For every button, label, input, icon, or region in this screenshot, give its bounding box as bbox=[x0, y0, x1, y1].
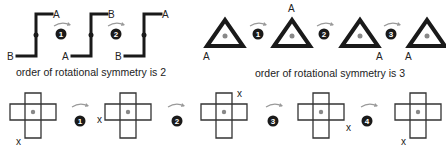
arrowhead-icon bbox=[397, 22, 401, 26]
z1-bottom-label: B bbox=[7, 51, 14, 62]
center-dot-icon bbox=[126, 110, 130, 114]
cross-frame-5: x bbox=[395, 93, 441, 147]
center-dot-icon bbox=[89, 33, 94, 38]
tri4-marker: A bbox=[405, 51, 412, 62]
z1-top-label: A bbox=[53, 9, 60, 20]
step-number: 1 bbox=[59, 30, 64, 39]
step-number: 2 bbox=[175, 117, 180, 126]
step-number: 2 bbox=[114, 30, 119, 39]
center-dot-icon bbox=[425, 34, 430, 39]
cross2-marker: x bbox=[97, 114, 102, 125]
arrowhead-icon bbox=[330, 22, 334, 26]
center-dot-icon bbox=[31, 110, 35, 114]
center-dot-icon bbox=[290, 34, 295, 39]
triangle-frame-3: A bbox=[342, 20, 383, 62]
tri2-marker: A bbox=[288, 3, 295, 14]
step-number: 4 bbox=[365, 117, 370, 126]
cross3-marker: x bbox=[237, 88, 242, 99]
center-dot-icon bbox=[223, 34, 228, 39]
center-dot-icon bbox=[142, 33, 147, 38]
arrowhead-icon bbox=[85, 103, 89, 107]
tri1-marker: A bbox=[203, 51, 210, 62]
arrowhead-icon bbox=[121, 22, 125, 26]
triangle-step-3: 3 bbox=[384, 22, 401, 40]
z2-bottom-label: A bbox=[62, 51, 69, 62]
arrowhead-icon bbox=[181, 103, 185, 107]
tri3-marker: A bbox=[376, 51, 383, 62]
cross-frame-3: x bbox=[201, 88, 247, 138]
z-caption: order of rotational symmetry is 2 bbox=[16, 66, 166, 78]
arrowhead-icon bbox=[263, 22, 267, 26]
triangle-step-1: 1 bbox=[250, 22, 267, 40]
z-step-2: 2 bbox=[108, 22, 125, 40]
z3-bottom-label: B bbox=[115, 51, 122, 62]
z-shape-frame-2: B A bbox=[62, 9, 115, 62]
z-shape-frame-3: A B bbox=[115, 9, 169, 62]
cross-frame-4: x bbox=[298, 93, 351, 138]
center-dot-icon bbox=[319, 110, 323, 114]
center-dot-icon bbox=[222, 110, 226, 114]
triangle-caption: order of rotational symmetry is 3 bbox=[255, 67, 405, 79]
triangle-frame-4: A bbox=[405, 20, 445, 62]
cross-step-2: 2 bbox=[168, 103, 185, 127]
cross1-marker: x bbox=[16, 136, 21, 147]
cross-step-1: 1 bbox=[72, 103, 89, 127]
center-dot-icon bbox=[416, 110, 420, 114]
diagram-svg: A B 1 B A 2 A B order of rotational symm… bbox=[0, 0, 446, 153]
triangle-step-2: 2 bbox=[317, 22, 334, 40]
arrowhead-icon bbox=[374, 103, 378, 107]
cross-frame-2: x bbox=[97, 93, 151, 138]
triangle-frame-1: A bbox=[203, 20, 243, 62]
step-number: 1 bbox=[256, 30, 261, 39]
z2-top-label: B bbox=[108, 9, 115, 20]
cross-step-4: 4 bbox=[361, 103, 378, 127]
center-dot-icon bbox=[358, 34, 363, 39]
cross4-marker: x bbox=[346, 122, 351, 133]
step-number: 1 bbox=[78, 117, 83, 126]
step-number: 3 bbox=[389, 30, 394, 39]
z3-top-label: A bbox=[162, 9, 169, 20]
center-dot-icon bbox=[34, 33, 39, 38]
z-shape-frame-1: A B bbox=[7, 9, 60, 62]
cross5-marker: x bbox=[401, 136, 406, 147]
step-number: 3 bbox=[271, 117, 276, 126]
triangle-frame-2: A bbox=[274, 3, 310, 46]
cross-step-3: 3 bbox=[266, 103, 283, 127]
z-step-1: 1 bbox=[54, 22, 71, 40]
cross-frame-1: x bbox=[10, 93, 56, 147]
arrowhead-icon bbox=[279, 103, 283, 107]
step-number: 2 bbox=[322, 30, 327, 39]
rotational-symmetry-diagram: A B 1 B A 2 A B order of rotational symm… bbox=[0, 0, 446, 153]
arrowhead-icon bbox=[67, 22, 71, 26]
